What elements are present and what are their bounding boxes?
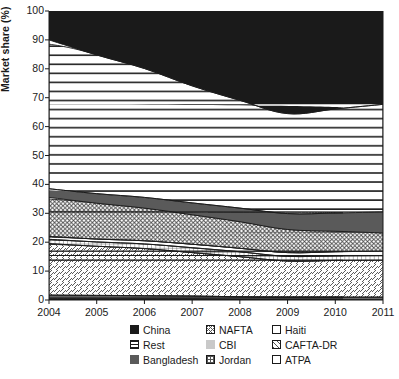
legend-item-jordan: Jordan	[206, 354, 272, 366]
x-tick-2009: 2009	[268, 306, 308, 318]
legend-label: Haiti	[285, 324, 306, 336]
legend-label: Bangladesh	[143, 354, 198, 366]
legend-swatch-icon-haiti	[272, 325, 281, 334]
x-axis-tick-labels: 20042005200620072008200920102011	[0, 303, 399, 321]
legend-swatch-icon-rest	[130, 340, 139, 349]
x-tick-2008: 2008	[220, 306, 260, 318]
legend-label: Rest	[143, 339, 165, 351]
legend-item-rest: Rest	[130, 339, 206, 351]
legend-item-bangladesh: Bangladesh	[130, 354, 206, 366]
legend-item-atpa: ATPA	[272, 354, 346, 366]
stacked-area-chart: Market share (%) 0102030405060708090100 …	[0, 0, 399, 379]
x-tick-2010: 2010	[315, 306, 355, 318]
legend-item-china: China	[130, 324, 206, 336]
legend-label: CBI	[219, 339, 237, 351]
x-tick-2007: 2007	[172, 306, 212, 318]
legend-item-nafta: NAFTA	[206, 324, 272, 336]
legend-label: NAFTA	[219, 324, 253, 336]
legend-label: China	[143, 324, 170, 336]
legend-swatch-icon-nafta	[206, 325, 215, 334]
legend-swatch-icon-cafta-dr	[272, 340, 281, 349]
legend-label: ATPA	[285, 354, 311, 366]
x-tick-2004: 2004	[29, 306, 69, 318]
x-tick-2005: 2005	[77, 306, 117, 318]
legend-swatch-icon-jordan	[206, 355, 215, 364]
legend-label: Jordan	[219, 354, 251, 366]
legend-swatch-icon-cbi	[206, 340, 215, 349]
legend-swatch-icon-bangladesh	[130, 355, 139, 364]
chart-legend: ChinaNAFTAHaitiRestCBICAFTA-DRBangladesh…	[130, 322, 375, 367]
legend-item-haiti: Haiti	[272, 324, 346, 336]
legend-swatch-icon-atpa	[272, 355, 281, 364]
legend-label: CAFTA-DR	[285, 339, 337, 351]
x-tick-2006: 2006	[124, 306, 164, 318]
x-tick-2011: 2011	[363, 306, 399, 318]
legend-item-cbi: CBI	[206, 339, 272, 351]
legend-item-cafta-dr: CAFTA-DR	[272, 339, 346, 351]
legend-swatch-icon-china	[130, 325, 139, 334]
